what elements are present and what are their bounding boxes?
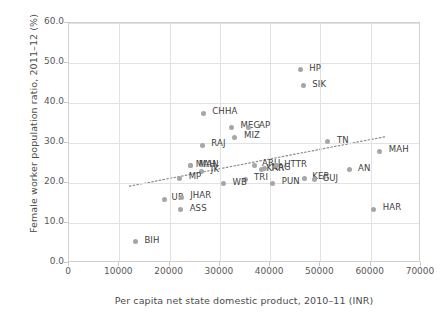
data-point-label: CHHA bbox=[212, 106, 237, 116]
gridline-vertical bbox=[320, 23, 321, 261]
data-point-label: JHAR bbox=[190, 190, 211, 200]
gridline-vertical bbox=[170, 23, 171, 261]
gridline-horizontal bbox=[69, 143, 419, 144]
data-point bbox=[270, 181, 275, 186]
data-point bbox=[274, 163, 279, 168]
data-point bbox=[177, 176, 182, 181]
x-tick-mark bbox=[219, 262, 220, 266]
y-tick-label: 50.0 bbox=[4, 56, 64, 66]
data-point bbox=[201, 111, 206, 116]
data-point bbox=[302, 176, 307, 181]
y-tick-label: 0.0 bbox=[4, 256, 64, 266]
data-point bbox=[221, 181, 226, 186]
data-point bbox=[188, 163, 193, 168]
data-point bbox=[232, 135, 237, 140]
data-point-label: HP bbox=[309, 63, 321, 73]
x-tick-label: 0 bbox=[40, 266, 96, 276]
data-point bbox=[162, 197, 167, 202]
data-point-label: HAR bbox=[383, 202, 402, 212]
data-point bbox=[301, 83, 306, 88]
y-tick-label: 40.0 bbox=[4, 96, 64, 106]
y-tick-label: 30.0 bbox=[4, 136, 64, 146]
data-point bbox=[246, 125, 251, 130]
data-point bbox=[229, 125, 234, 130]
data-point-label: GUJ bbox=[322, 173, 338, 183]
x-tick-mark bbox=[319, 262, 320, 266]
data-point-label: MAH bbox=[389, 144, 409, 154]
data-point bbox=[377, 149, 382, 154]
x-tick-label: 30000 bbox=[191, 266, 247, 276]
scatter-chart: Female worker population ratio, 2011–12 … bbox=[0, 0, 444, 317]
data-point bbox=[371, 207, 376, 212]
x-tick-label: 20000 bbox=[141, 266, 197, 276]
data-point bbox=[200, 143, 205, 148]
y-axis-title: Female worker population ratio, 2011–12 … bbox=[28, 0, 39, 249]
data-point-label: AP bbox=[259, 120, 270, 130]
gridline-vertical bbox=[119, 23, 120, 261]
data-point-label: TRI bbox=[254, 172, 268, 182]
x-tick-label: 70000 bbox=[392, 266, 444, 276]
gridline-vertical bbox=[270, 23, 271, 261]
data-point-label: UTTR bbox=[284, 159, 307, 169]
x-tick-mark bbox=[118, 262, 119, 266]
data-point-label: WB bbox=[232, 177, 247, 187]
data-point bbox=[179, 195, 184, 200]
data-point-label: SIK bbox=[312, 79, 326, 89]
data-point bbox=[347, 167, 352, 172]
data-point bbox=[178, 207, 183, 212]
x-tick-label: 40000 bbox=[241, 266, 297, 276]
data-point-label: AN bbox=[358, 163, 370, 173]
data-point-label: MIZ bbox=[244, 130, 260, 140]
gridline-vertical bbox=[371, 23, 372, 261]
data-point bbox=[298, 67, 303, 72]
gridline-horizontal bbox=[69, 63, 419, 64]
x-tick-mark bbox=[269, 262, 270, 266]
x-tick-label: 60000 bbox=[342, 266, 398, 276]
gridline-horizontal bbox=[69, 223, 419, 224]
y-tick-label: 20.0 bbox=[4, 176, 64, 186]
x-tick-label: 10000 bbox=[90, 266, 146, 276]
y-tick-label: 10.0 bbox=[4, 216, 64, 226]
x-tick-label: 50000 bbox=[291, 266, 347, 276]
data-point-label: JK bbox=[211, 164, 219, 174]
data-point-label: RAJ bbox=[211, 138, 225, 148]
data-point bbox=[252, 163, 257, 168]
x-tick-mark bbox=[370, 262, 371, 266]
gridline-horizontal bbox=[69, 103, 419, 104]
data-point-label: MP bbox=[189, 171, 202, 181]
y-tick-label: 60.0 bbox=[4, 16, 64, 26]
data-point-label: TN bbox=[337, 135, 349, 145]
x-tick-mark bbox=[169, 262, 170, 266]
plot-area: HPSIKCHHAMEGAPMIZRAJTNMAHMANMAHJKARUNAGK… bbox=[68, 22, 420, 262]
data-point bbox=[312, 177, 317, 182]
x-axis-title: Per capita net state domestic product, 2… bbox=[68, 295, 420, 306]
data-point-label: ASS bbox=[190, 203, 207, 213]
data-point-label: BIH bbox=[144, 235, 159, 245]
gridline-horizontal bbox=[69, 23, 419, 24]
data-point-label: PUN bbox=[282, 176, 300, 186]
x-tick-mark bbox=[420, 262, 421, 266]
x-tick-mark bbox=[68, 262, 69, 266]
data-point bbox=[133, 239, 138, 244]
